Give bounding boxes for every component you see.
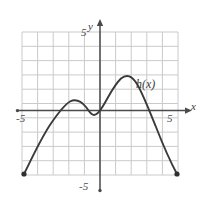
y-axis-label: y (88, 21, 93, 32)
endpoint-dot-right (174, 171, 179, 176)
x-axis-label: x (191, 101, 196, 112)
endpoint-dot-left (21, 171, 26, 176)
y-axis-tick-label-minus5: -5 (79, 181, 88, 192)
x-axis-tick-label-5: 5 (167, 113, 173, 124)
graph-screenshot: y x 5 -5 -5 5 h(x) (0, 0, 203, 205)
x-axis-tick-label-minus5: -5 (16, 113, 25, 124)
y-axis-tick-label-5: 5 (81, 27, 87, 38)
curve-label-hx: h(x) (136, 78, 155, 90)
x-axis (16, 107, 192, 113)
coordinate-plane-graphic (0, 0, 203, 205)
